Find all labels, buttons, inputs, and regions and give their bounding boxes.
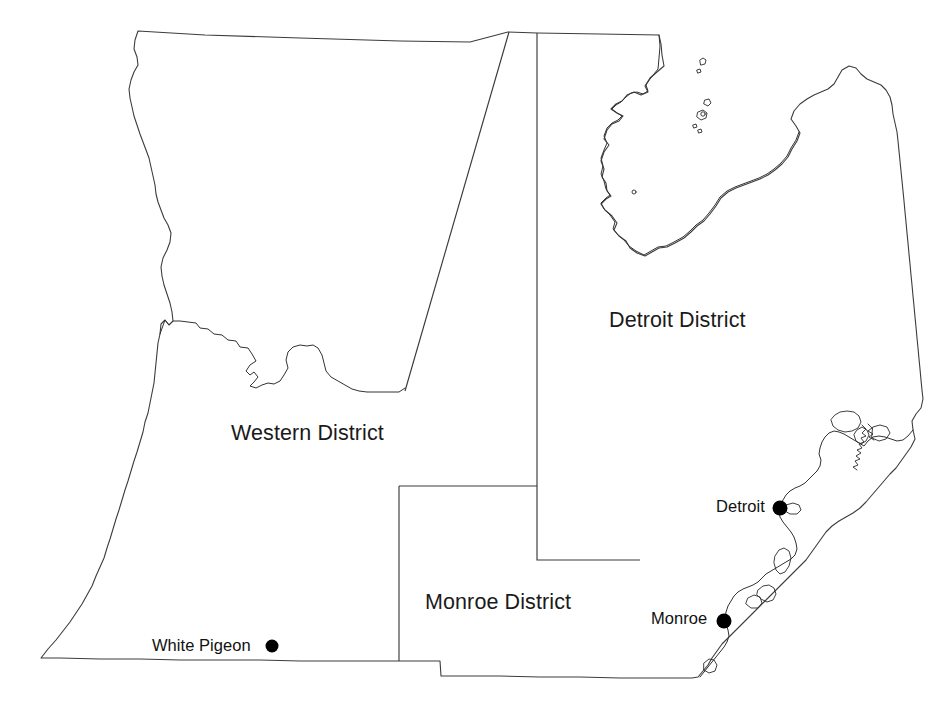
saginaw-bay-islet-b bbox=[693, 124, 697, 128]
saginaw-bay-island-tip bbox=[704, 99, 711, 106]
saginaw-bay-island-small bbox=[697, 69, 701, 73]
saginaw-bay-islet-a bbox=[701, 112, 705, 116]
city-dot-monroe[interactable] bbox=[717, 614, 732, 629]
saginaw-bay-islet-c bbox=[698, 129, 702, 133]
city-label-monroe: Monroe bbox=[651, 609, 707, 628]
district-label-detroit: Detroit District bbox=[609, 308, 746, 333]
city-dot-detroit[interactable] bbox=[773, 501, 788, 516]
district-map: Western District Detroit District Monroe… bbox=[0, 0, 948, 709]
city-dot-white-pigeon[interactable] bbox=[266, 640, 279, 653]
state-outline-path bbox=[41, 31, 923, 678]
saginaw-bay-island-cluster bbox=[697, 110, 707, 120]
city-label-detroit: Detroit bbox=[716, 497, 765, 516]
saginaw-bay-islet-d bbox=[632, 190, 636, 194]
saginaw-bay-island-north bbox=[700, 58, 706, 65]
city-label-white-pigeon: White Pigeon bbox=[152, 636, 251, 655]
district-label-monroe: Monroe District bbox=[425, 590, 571, 615]
district-label-western: Western District bbox=[231, 421, 384, 446]
